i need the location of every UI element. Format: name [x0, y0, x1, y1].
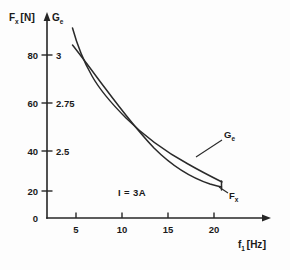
x-axis-unit-close: ]: [262, 238, 266, 250]
x-axis-title: f1[Hz]: [238, 238, 266, 252]
x-tick-label-20: 20: [209, 224, 220, 235]
svg-text:f1[Hz]: f1[Hz]: [238, 238, 266, 252]
y-tick-label-20: 20: [27, 186, 38, 197]
y-tick-label-inner-25: 2.5: [56, 146, 70, 157]
svg-text:Fx[N]: Fx[N]: [9, 11, 35, 25]
y-tick-labels-left: 80 60 40 20 0: [27, 50, 38, 224]
y-tick-labels-inner: 3 2.75 2.5: [56, 50, 75, 157]
x-axis-symbol-subscript: 1: [241, 245, 245, 252]
y-axis-title: Fx[N]: [9, 11, 35, 25]
curve-ge: [73, 28, 223, 182]
chart-figure: Fx[N] Ge 80 60 40 20 0 3 2.75 2.5 5 10 1…: [0, 0, 290, 270]
y-axis-inner-symbol-subscript: e: [60, 18, 64, 25]
x-axis-arrow-icon: [262, 215, 271, 222]
x-axis-group: [47, 213, 271, 222]
y-axis-symbol-subscript: x: [15, 18, 19, 25]
svg-text:Ge: Ge: [224, 129, 235, 142]
leader-line-fx: [219, 187, 228, 193]
y-axis-origin-label: 0: [33, 213, 38, 224]
curve-label-ge-subscript: e: [231, 135, 235, 142]
curve-fx: [73, 45, 222, 187]
y-tick-label-80: 80: [27, 50, 38, 61]
x-tick-label-10: 10: [117, 224, 128, 235]
curve-label-ge-symbol: G: [224, 129, 231, 140]
y-tick-label-60: 60: [27, 98, 38, 109]
y-axis-arrow-icon: [44, 12, 51, 21]
chart-plot-area: Fx[N] Ge 80 60 40 20 0 3 2.75 2.5 5 10 1…: [0, 0, 290, 270]
y-axis-inner-title: Ge: [52, 12, 64, 25]
plot-annotation-condition: I = 3A: [118, 187, 146, 198]
y-axis-unit-close: ]: [31, 11, 35, 23]
data-curves-group: [73, 28, 223, 190]
x-tick-labels: 5 10 15 20: [73, 224, 219, 235]
y-tick-label-inner-3: 3: [56, 50, 61, 61]
svg-text:Ge: Ge: [52, 12, 64, 25]
y-tick-label-40: 40: [27, 146, 38, 157]
y-axis-group: [42, 12, 53, 218]
x-axis-unit: Hz: [250, 239, 262, 250]
x-tick-label-5: 5: [73, 224, 79, 235]
svg-text:Fx: Fx: [229, 190, 239, 203]
y-axis-unit: N: [24, 12, 31, 23]
y-tick-label-inner-275: 2.75: [56, 98, 75, 109]
curve-label-fx-subscript: x: [235, 196, 239, 203]
leader-line-ge: [196, 140, 222, 157]
x-tick-label-15: 15: [163, 224, 174, 235]
